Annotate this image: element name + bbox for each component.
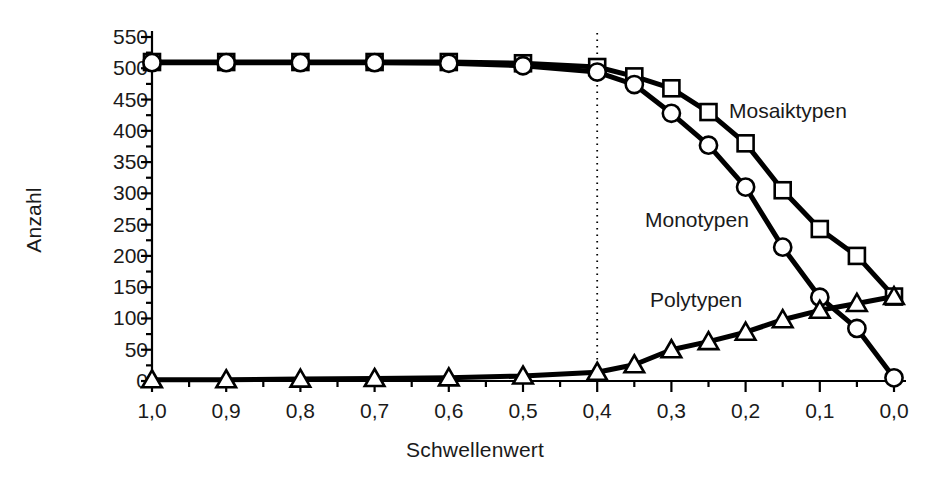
marker-circle-monotypen	[737, 179, 754, 196]
plot-area	[0, 0, 950, 488]
marker-circle-monotypen	[700, 137, 717, 154]
marker-circle-monotypen	[514, 57, 531, 74]
series-label-monotypen: Monotypen	[645, 209, 749, 230]
marker-circle-monotypen	[143, 54, 160, 71]
marker-circle-monotypen	[218, 54, 235, 71]
marker-circle-monotypen	[626, 76, 643, 93]
marker-square-mosaiktypen	[849, 248, 865, 264]
marker-circle-monotypen	[366, 54, 383, 71]
marker-circle-monotypen	[440, 55, 457, 72]
marker-circle-monotypen	[774, 239, 791, 256]
marker-circle-monotypen	[589, 63, 606, 80]
marker-square-mosaiktypen	[738, 135, 754, 151]
chart-figure: Anzahl 050100150200250300350400450500550…	[0, 0, 950, 488]
marker-circle-monotypen	[848, 320, 865, 337]
marker-circle-monotypen	[663, 105, 680, 122]
marker-circle-monotypen	[292, 54, 309, 71]
marker-square-mosaiktypen	[701, 104, 717, 120]
series-label-mosaiktypen: Mosaiktypen	[729, 100, 847, 121]
marker-square-mosaiktypen	[775, 182, 791, 198]
marker-square-mosaiktypen	[812, 221, 828, 237]
marker-circle-monotypen	[885, 369, 902, 386]
x-axis-title: Schwellenwert	[0, 438, 950, 462]
marker-square-mosaiktypen	[663, 80, 679, 96]
series-label-polytypen: Polytypen	[650, 289, 742, 310]
series-line-mosaiktypen	[152, 62, 894, 297]
